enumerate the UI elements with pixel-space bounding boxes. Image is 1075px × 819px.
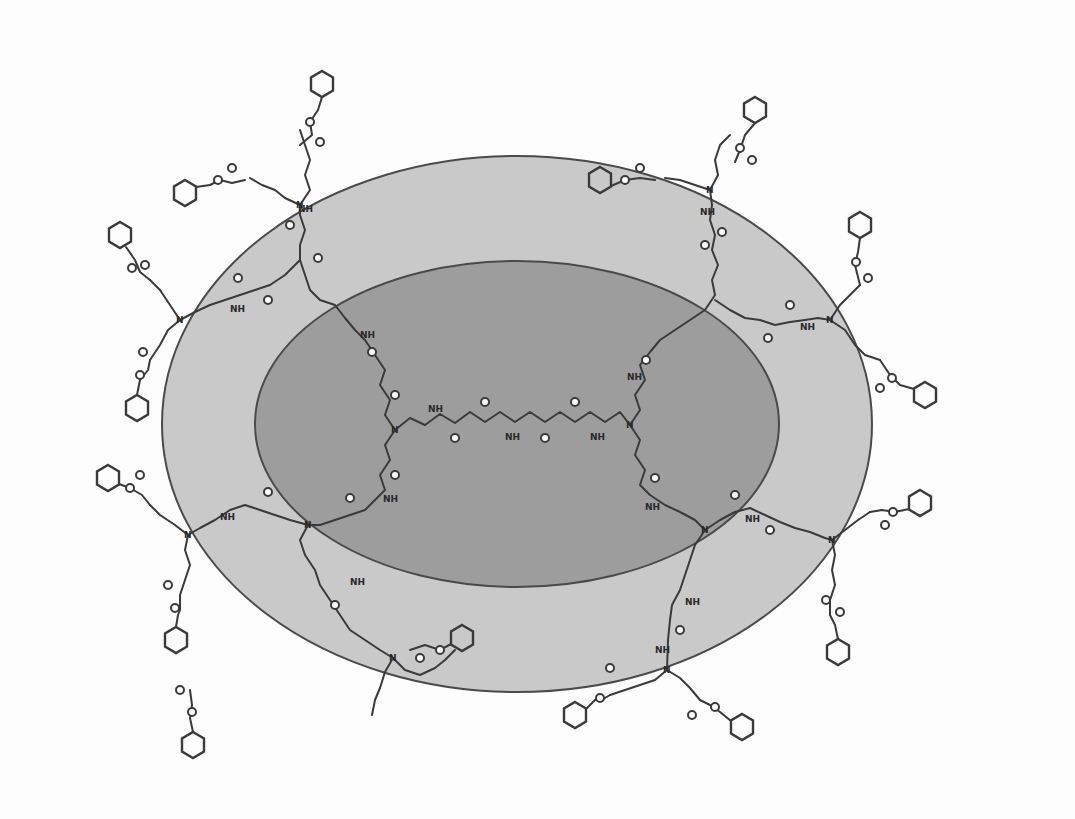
- svg-text:NH: NH: [230, 304, 245, 314]
- svg-text:N: N: [389, 653, 397, 663]
- dendrimer-diagram: NH NH NH: [0, 0, 1075, 819]
- svg-text:NH: NH: [350, 577, 365, 587]
- benzene-ring-icon: [165, 627, 187, 653]
- svg-text:N: N: [184, 530, 192, 540]
- svg-text:N: N: [706, 185, 714, 195]
- benzene-ring-icon: [731, 714, 753, 740]
- svg-text:N: N: [296, 200, 304, 210]
- benzene-ring-icon: [564, 702, 586, 728]
- benzene-ring-icon: [909, 490, 931, 516]
- svg-text:N: N: [826, 315, 834, 325]
- svg-text:NH: NH: [800, 322, 815, 332]
- benzene-ring-icon: [174, 180, 196, 206]
- benzene-ring-icon: [126, 395, 148, 421]
- benzene-ring-icon: [311, 71, 333, 97]
- benzene-ring-icon: [914, 382, 936, 408]
- svg-text:NH: NH: [685, 597, 700, 607]
- svg-text:NH: NH: [505, 432, 520, 442]
- svg-text:NH: NH: [383, 494, 398, 504]
- svg-text:NH: NH: [360, 330, 375, 340]
- svg-text:N: N: [626, 420, 634, 430]
- svg-text:N: N: [391, 425, 399, 435]
- benzene-ring-icon: [849, 212, 871, 238]
- svg-text:NH: NH: [745, 514, 760, 524]
- svg-text:N: N: [304, 520, 312, 530]
- svg-text:NH: NH: [645, 502, 660, 512]
- svg-text:NH: NH: [655, 645, 670, 655]
- benzene-ring-icon: [827, 639, 849, 665]
- benzene-ring-icon: [97, 465, 119, 491]
- svg-text:N: N: [828, 535, 836, 545]
- benzene-ring-icon: [109, 222, 131, 248]
- svg-text:NH: NH: [627, 372, 642, 382]
- svg-text:NH: NH: [590, 432, 605, 442]
- svg-text:NH: NH: [220, 512, 235, 522]
- svg-text:N: N: [663, 665, 671, 675]
- svg-text:N: N: [176, 315, 184, 325]
- svg-text:NH: NH: [700, 207, 715, 217]
- benzene-ring-icon: [744, 97, 766, 123]
- svg-text:N: N: [701, 525, 709, 535]
- benzene-ring-icon: [182, 732, 204, 758]
- svg-text:NH: NH: [428, 404, 443, 414]
